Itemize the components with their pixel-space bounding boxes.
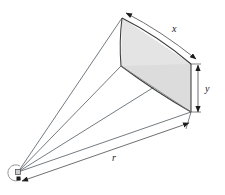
dimension-r: r [22, 112, 191, 181]
label-r: r [112, 152, 116, 163]
solid-angle-diagram: x y r [0, 0, 225, 195]
geometry-figure-svg: x y r [0, 0, 225, 195]
apex-square-icon [16, 170, 21, 175]
ray-to-bottom-left [18, 66, 121, 172]
ray-to-bottom-right [18, 112, 191, 172]
apex-marker [8, 165, 21, 181]
dimension-y: y [191, 64, 210, 112]
apex-point-dot [17, 177, 21, 181]
dimension-r-line [22, 123, 189, 181]
label-x: x [171, 23, 177, 34]
label-y: y [204, 83, 210, 94]
ray-to-top-left [18, 18, 122, 172]
dimension-r-ext-far [186, 112, 191, 129]
projected-patch [120, 18, 191, 112]
